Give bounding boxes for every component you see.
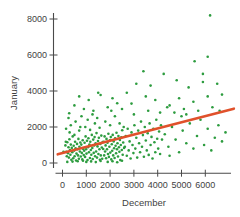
scatter-point [90, 149, 93, 152]
scatter-point [90, 160, 93, 163]
scatter-point [135, 83, 138, 86]
scatter-point [78, 157, 81, 160]
scatter-point [132, 152, 135, 155]
scatter-point [147, 110, 150, 113]
scatter-point [140, 120, 143, 123]
scatter-point [106, 148, 109, 151]
x-tick-label: 0 [60, 180, 65, 190]
scatter-point [131, 144, 134, 147]
scatter-point [117, 135, 120, 138]
scatter-point [112, 154, 115, 157]
scatter-point [214, 137, 217, 140]
scatter-point [178, 151, 181, 154]
scatter-point [116, 161, 119, 164]
scatter-point [185, 142, 188, 145]
scatter-point [99, 94, 102, 97]
scatter-point [78, 129, 81, 132]
scatter-point [167, 146, 170, 149]
scatter-point [72, 144, 75, 147]
scatter-point [129, 157, 132, 160]
scatter-point [217, 124, 220, 127]
scatter-point [118, 151, 121, 154]
scatter-point [115, 132, 118, 135]
scatter-point [118, 122, 121, 125]
scatter-point [126, 92, 129, 95]
y-tick-label: 0 [42, 158, 47, 168]
scatter-point [89, 141, 92, 144]
scatter-point [189, 122, 192, 125]
scatter-point [153, 141, 156, 144]
scatter-point [154, 151, 157, 154]
scatter-point [67, 146, 70, 149]
scatter-point [96, 117, 99, 120]
scatter-point [89, 157, 92, 160]
scatter-point [175, 79, 178, 82]
scatter-point [192, 101, 195, 104]
scatter-point [104, 144, 107, 147]
scatter-point [95, 150, 98, 153]
scatter-point [181, 129, 184, 132]
scatter-point [116, 148, 119, 151]
scatter-points [62, 14, 227, 164]
y-axis-title: January [8, 76, 19, 110]
scatter-point [116, 142, 119, 145]
scatter-point [162, 73, 165, 76]
scatter-point [202, 73, 205, 76]
scatter-point [74, 141, 77, 144]
scatter-point [97, 140, 100, 143]
x-tick-label: 2000 [100, 180, 120, 190]
scatter-point [133, 124, 136, 127]
scatter-point [114, 115, 117, 118]
scatter-point [209, 14, 212, 17]
scatter-point [104, 120, 107, 123]
scatter-point [68, 112, 71, 115]
scatter-point [221, 140, 224, 143]
scatter-point [111, 150, 114, 153]
scatter-point [111, 160, 114, 163]
scatter-point [65, 141, 68, 144]
x-tick-label: 6000 [195, 180, 215, 190]
scatter-point [103, 154, 106, 157]
scatter-point [89, 129, 92, 132]
scatter-point [178, 97, 181, 100]
scatter-point [99, 160, 102, 163]
scatter-point [81, 152, 84, 155]
scatter-point [91, 158, 94, 161]
scatter-point [206, 95, 209, 98]
scatter-point [104, 150, 107, 153]
scatter-point [138, 142, 141, 145]
scatter-point [117, 155, 120, 158]
scatter-point [121, 159, 124, 162]
scatter-point [168, 155, 171, 158]
scatter-point [73, 155, 76, 158]
scatter-point [161, 138, 164, 141]
scatter-point [102, 148, 105, 151]
y-tick-label: 4000 [27, 86, 47, 96]
scatter-point [83, 108, 86, 111]
scatter-point [122, 126, 125, 129]
scatter-point [84, 156, 87, 159]
x-tick-label: 4000 [148, 180, 168, 190]
scatter-point [88, 151, 91, 154]
scatter-chart: 02000400060008000 0100020003000400050006… [0, 0, 240, 217]
scatter-point [121, 108, 124, 111]
scatter-point [137, 129, 140, 132]
scatter-point [128, 140, 131, 143]
scatter-point [68, 156, 71, 159]
scatter-point [149, 84, 152, 87]
y-tick-label: 6000 [27, 50, 47, 60]
scatter-point [113, 157, 116, 160]
scatter-point [148, 122, 151, 125]
scatter-point [68, 131, 71, 134]
scatter-point [122, 141, 125, 144]
scatter-point [76, 160, 79, 163]
scatter-point [108, 156, 111, 159]
scatter-point [185, 113, 188, 116]
scatter-point [86, 139, 89, 142]
scatter-point [111, 97, 114, 100]
scatter-point [71, 147, 74, 150]
scatter-point [77, 154, 80, 157]
scatter-point [77, 138, 80, 141]
scatter-point [87, 99, 90, 102]
scatter-point [216, 83, 219, 86]
